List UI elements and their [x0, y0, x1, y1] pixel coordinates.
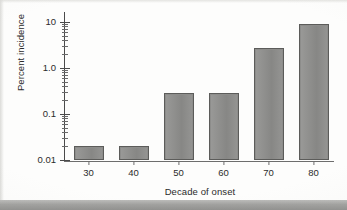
x-tick-label: 50	[159, 167, 199, 178]
scan-artifact-band	[0, 200, 347, 210]
y-tick-minor	[62, 118, 68, 119]
plot-area: 101.00.10.01 304050607080	[64, 12, 334, 162]
y-tick-minor	[62, 128, 68, 129]
bar	[299, 24, 329, 160]
scan-artifact-top	[0, 0, 347, 3]
y-tick-major	[60, 160, 70, 161]
y-tick-minor	[62, 138, 68, 139]
y-tick-minor	[62, 40, 68, 41]
y-tick-minor	[62, 78, 68, 79]
y-tick-label: 0.1	[16, 109, 56, 119]
x-tick	[223, 161, 224, 165]
x-axis-label: Decade of onset	[60, 186, 340, 197]
x-tick	[313, 161, 314, 165]
y-tick-minor	[62, 46, 68, 47]
y-tick-minor	[62, 124, 68, 125]
y-tick-minor	[62, 26, 68, 27]
y-tick-minor	[62, 24, 68, 25]
y-tick-minor	[62, 70, 68, 71]
y-tick-minor	[62, 100, 68, 101]
y-tick-minor	[62, 116, 68, 117]
x-tick	[178, 161, 179, 165]
y-tick-minor	[62, 29, 68, 30]
y-tick-minor	[62, 82, 68, 83]
bar	[74, 146, 104, 160]
x-tick	[268, 161, 269, 165]
y-tick-label: 10	[16, 17, 56, 27]
bar	[209, 93, 239, 160]
y-tick-label: 1.0	[16, 63, 56, 73]
bar	[119, 146, 149, 160]
chart-figure: Percent incidence 101.00.10.01 304050607…	[0, 0, 347, 210]
x-tick-label: 60	[204, 167, 244, 178]
x-tick-label: 30	[69, 167, 109, 178]
x-tick-label: 70	[249, 167, 289, 178]
y-tick-minor	[62, 36, 68, 37]
y-tick-minor	[62, 72, 68, 73]
y-tick-major	[60, 114, 70, 115]
y-tick-minor	[62, 75, 68, 76]
y-tick-major	[60, 22, 70, 23]
x-tick-label: 40	[114, 167, 154, 178]
y-tick-minor	[62, 121, 68, 122]
bar	[254, 48, 284, 160]
y-tick-label: 0.01	[16, 155, 56, 165]
x-tick	[133, 161, 134, 165]
y-tick-minor	[62, 146, 68, 147]
y-tick-minor	[62, 54, 68, 55]
y-tick-minor	[62, 32, 68, 33]
scan-artifact-left	[0, 0, 4, 200]
x-tick-label: 80	[294, 167, 334, 178]
y-tick-major	[60, 68, 70, 69]
x-tick	[88, 161, 89, 165]
bar	[164, 93, 194, 160]
y-tick-minor	[62, 92, 68, 93]
y-tick-minor	[62, 132, 68, 133]
y-tick-minor	[62, 86, 68, 87]
x-axis-line	[64, 161, 334, 162]
